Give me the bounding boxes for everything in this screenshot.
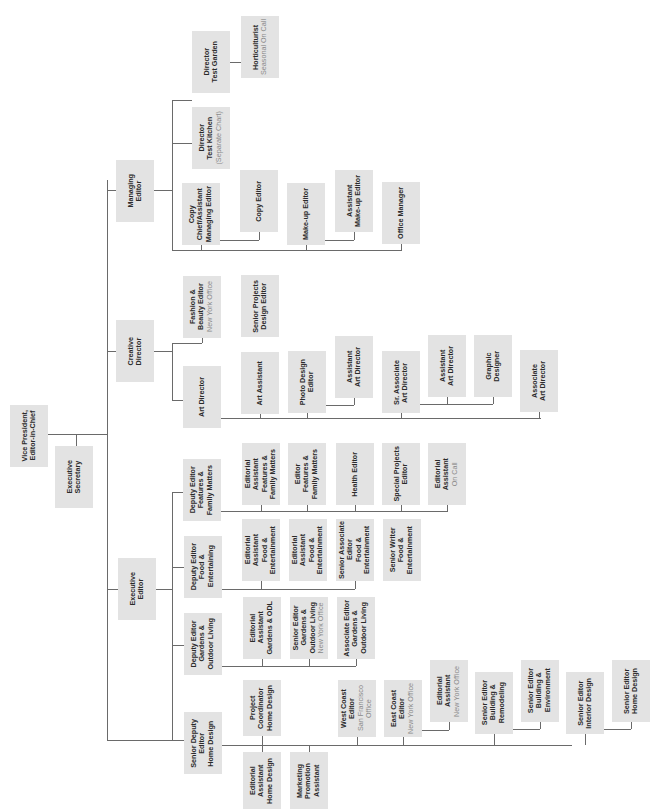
node-title: Editorial Assistant — [433, 458, 450, 490]
connector-line — [585, 734, 586, 745]
node-title: Copy Chief/Assistant Managing Editor — [187, 186, 213, 242]
node-title: Marketing Promotion Assistant — [295, 763, 321, 799]
node-title: Deputy Editor Features & Family Matters — [188, 465, 214, 515]
node-title: Senior Editor Building & Remodeling — [480, 680, 506, 725]
node-title: Health Editor — [350, 452, 359, 497]
connector-line — [403, 737, 404, 745]
connector-line — [107, 180, 108, 740]
node-title: Associate Art Director — [530, 361, 547, 401]
connector-line — [221, 511, 448, 512]
org-node-managing-editor: Managing Editor — [116, 160, 154, 222]
connector-line — [172, 492, 173, 740]
org-node-dep-features: Deputy Editor Features & Family Matters — [183, 459, 221, 521]
org-node-copy-editor: Copy Editor — [240, 170, 278, 232]
connector-line — [172, 100, 192, 101]
node-title: Executive Editor — [128, 572, 145, 606]
connector-line — [156, 589, 172, 590]
node-title: Senior Editor Gardens & Outdoor Living — [291, 602, 317, 654]
connector-line — [539, 412, 540, 418]
connector-line — [107, 589, 118, 590]
node-title: Assistant Make-up Editor — [345, 175, 362, 227]
connector-line — [230, 62, 241, 63]
connector-line — [48, 434, 108, 435]
node-subtitle: New York Office — [206, 281, 214, 332]
node-subtitle: New York Office — [407, 680, 415, 737]
org-node-sr-assoc-art-director: Sr. Associate Art Director — [382, 351, 420, 413]
connector-line — [449, 722, 450, 730]
org-node-dep-gardens: Deputy Editor Gardens & Outdoor Living — [184, 613, 222, 675]
connector-line — [354, 232, 355, 240]
node-title: Editorial Assistant Food & Entertainment — [243, 526, 277, 574]
org-node-ea-gardens: Editorial Assistant Gardens & ODL — [243, 597, 281, 659]
connector-line — [154, 190, 172, 191]
node-title: Art Director — [197, 377, 206, 417]
node-title: Special Projects Editor — [392, 446, 409, 502]
connector-line — [107, 190, 116, 191]
org-node-graphic-designer: Graphic Designer — [474, 335, 512, 397]
connector-line — [154, 351, 172, 352]
node-title: Project Coordinator Home Design — [248, 685, 274, 731]
org-node-senior-deputy-home: Senior Deputy Editor Home Design — [184, 712, 222, 774]
org-node-assoc-art-director: Associate Art Director — [520, 350, 558, 412]
connector-line — [357, 737, 358, 745]
connector-line — [513, 729, 540, 730]
org-node-dir-test-kitchen: Director Test Kitchen(Separate Chart) — [192, 107, 230, 169]
node-title: Senior Deputy Editor Home Design — [189, 719, 215, 768]
node-title: Assistant Art Director — [438, 346, 455, 386]
node-title: Senior Projects Design Editor — [251, 280, 268, 333]
node-title: Graphic Designer — [484, 351, 501, 382]
connector-line — [447, 505, 448, 511]
connector-line — [354, 398, 355, 405]
org-node-sr-writer-food: Senior Writer Food & Entertainment — [383, 519, 421, 581]
org-node-special-projects: Special Projects Editor — [382, 443, 420, 505]
connector-line — [326, 405, 354, 406]
node-title: Creative Director — [126, 337, 143, 365]
connector-line — [325, 240, 354, 241]
org-node-ea-home: Editorial Assistant Home Design — [243, 752, 281, 809]
connector-line — [306, 245, 307, 250]
connector-line — [309, 659, 310, 666]
org-node-sr-editor-building-env: Senior Editor Building & Environment — [521, 660, 559, 722]
org-node-assoc-editor-gardens: Associate Editor Gardens & Outdoor Livin… — [337, 597, 375, 659]
node-title: Managing Editor — [126, 174, 143, 208]
org-node-vp: Vice President, Editor-in-Chief — [10, 405, 48, 467]
node-title: Make-up Editor — [301, 188, 310, 240]
org-node-makeup-editor: Make-up Editor — [287, 183, 325, 245]
connector-line — [262, 659, 263, 666]
connector-line — [356, 659, 357, 666]
org-node-east-coast: East Coast EditorNew York Office — [384, 680, 422, 737]
connector-line — [172, 143, 192, 144]
org-node-ea-ny: Editorial AssistantNew York Office — [430, 660, 468, 722]
connector-line — [172, 250, 402, 251]
org-node-asst-art-director-1: Assistant Art Director — [335, 336, 373, 398]
connector-line — [201, 245, 202, 250]
node-title: Director Test Kitchen — [197, 117, 214, 160]
connector-line — [259, 232, 260, 240]
org-node-sr-editor-interior: Senior Editor Interior Design — [566, 672, 604, 734]
connector-line — [540, 722, 541, 729]
node-title: Director Test Garden — [202, 41, 219, 82]
node-title: East Coast Editor — [389, 690, 406, 727]
connector-line — [172, 343, 173, 400]
connector-line — [307, 505, 308, 511]
node-title: Photo Design Editor — [298, 359, 315, 405]
connector-line — [107, 351, 116, 352]
connector-line — [631, 722, 632, 729]
node-title: Editorial Assistant Features & Family Ma… — [243, 449, 277, 499]
connector-line — [355, 581, 356, 589]
connector-line — [447, 397, 448, 404]
org-node-sr-editor-home-design: Senior Editor Home Design — [612, 660, 650, 722]
org-node-project-coord-home: Project Coordinator Home Design — [243, 680, 281, 736]
connector-line — [494, 734, 495, 745]
org-node-marketing-promo: Marketing Promotion Assistant — [290, 752, 328, 809]
org-node-horticulturist: HorticulturistSeasonal On Call — [241, 16, 279, 78]
node-title: Sr. Associate Art Director — [392, 360, 409, 405]
org-node-asst-makeup-editor: Assistant Make-up Editor — [335, 170, 373, 232]
connector-line — [261, 505, 262, 511]
connector-line — [309, 745, 310, 752]
node-title: Editorial Assistant Food & Entertainment — [290, 526, 324, 574]
connector-line — [261, 581, 262, 589]
connector-line — [172, 645, 184, 646]
org-node-health-editor: Health Editor — [336, 443, 374, 505]
org-node-office-manager: Office Manager — [382, 182, 420, 244]
